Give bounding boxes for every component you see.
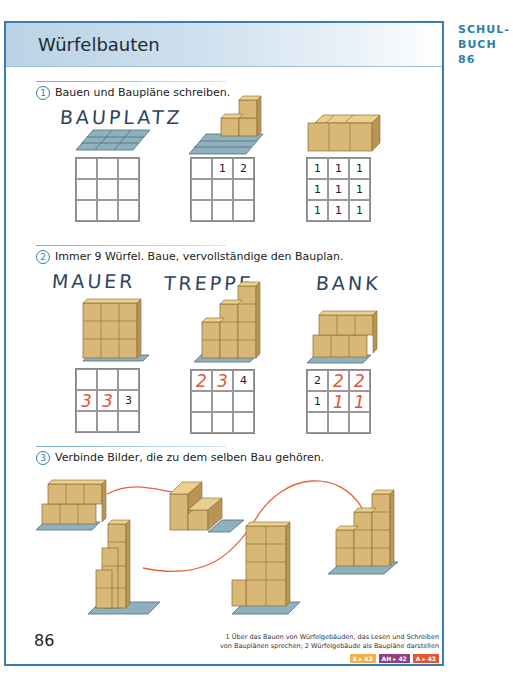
footnote-line1: 1 Über das Bauen von Würfelgebäuden, das… <box>199 633 439 642</box>
page-number: 86 <box>34 631 54 650</box>
badge-ah: AH ▸ 42 <box>379 654 410 663</box>
footnote: 1 Über das Bauen von Würfelgebäuden, das… <box>199 633 439 651</box>
cube-building-illustration <box>88 518 168 618</box>
cube-building-illustration <box>326 488 406 578</box>
reference-badges: E ▸ 43 AH ▸ 42 A ▸ 43 <box>350 654 439 663</box>
badge-a: A ▸ 43 <box>413 654 439 663</box>
cube-building-illustration <box>230 518 310 618</box>
badge-e: E ▸ 43 <box>350 654 376 663</box>
footnote-line2: von Bauplänen sprechen; 2 Würfelgebäude … <box>199 642 439 651</box>
